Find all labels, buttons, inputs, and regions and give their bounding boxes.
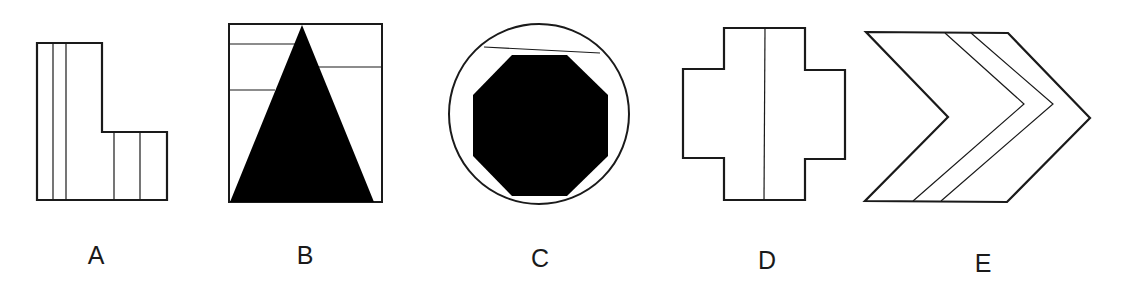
- figures-canvas: [0, 0, 1130, 295]
- figure-c-octagon: [473, 55, 608, 196]
- figure-c-chord: [484, 47, 600, 53]
- figure-a-outline: [37, 43, 167, 200]
- figure-a-label: A: [88, 243, 105, 268]
- figure-d-line: [764, 28, 765, 200]
- figure-a: [37, 43, 167, 200]
- figure-e-inner-chevron-1: [913, 33, 1024, 201]
- figure-d: [683, 28, 845, 200]
- figure-c: [449, 24, 629, 204]
- figure-b: [229, 24, 382, 202]
- figure-e: [865, 32, 1090, 202]
- figure-e-inner-chevron-2: [941, 33, 1053, 201]
- figure-d-label: D: [758, 248, 776, 273]
- figure-e-outline: [865, 32, 1090, 202]
- figure-c-label: C: [531, 246, 549, 271]
- figure-b-triangle: [230, 25, 374, 202]
- figure-e-label: E: [975, 251, 992, 276]
- figure-b-label: B: [297, 243, 314, 268]
